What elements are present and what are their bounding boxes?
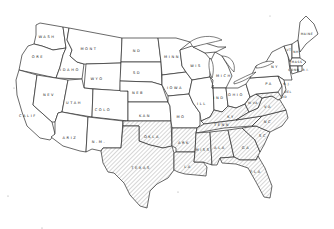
- label-ore: ORE: [32, 55, 44, 59]
- label-sc: SC: [259, 134, 267, 138]
- label-nev: NEV: [43, 93, 55, 97]
- label-colo: COLO: [95, 108, 111, 112]
- label-maine: MAINE: [301, 32, 314, 36]
- label-idaho: IDAHO: [60, 68, 80, 72]
- label-fla: FLA: [250, 170, 261, 174]
- label-ohio: OHIO: [228, 93, 244, 97]
- label-mont: MONT: [80, 47, 97, 51]
- speck: [7, 195, 8, 196]
- label-conn: CONN: [288, 68, 299, 72]
- label-nj: N.J.: [283, 82, 290, 86]
- label-pa: PA: [265, 82, 273, 86]
- label-wva: W.VA: [248, 101, 258, 105]
- label-ariz: ARIZ: [63, 136, 78, 140]
- label-md: MD: [281, 95, 287, 99]
- label-va: VA: [264, 105, 272, 109]
- label-calif: CALIF: [19, 114, 37, 118]
- label-miss: MISS: [195, 148, 210, 152]
- label-mo: MO: [176, 115, 185, 119]
- label-okla: OKLA: [144, 135, 160, 139]
- us-map: WASH ORE CALIF IDAHO NEV MONT WYO UTAH A…: [0, 0, 334, 229]
- state-iowa: [162, 72, 192, 96]
- label-ark: ARK: [178, 141, 190, 145]
- label-ala: ALA: [214, 146, 226, 150]
- label-mich: MICH: [216, 74, 232, 78]
- state-ariz: [51, 112, 88, 152]
- label-nm: N.M.: [92, 140, 106, 144]
- state-colo: [92, 89, 128, 121]
- state-fla: [220, 156, 272, 198]
- label-ky: KY: [227, 115, 235, 119]
- label-mass: MASS: [292, 60, 303, 64]
- label-tenn: TENN: [213, 123, 230, 127]
- state-nm: [86, 117, 123, 152]
- label-wis: WIS: [190, 64, 202, 68]
- label-texas: TEXAS: [130, 166, 151, 170]
- state-kan: [128, 102, 171, 121]
- label-minn: MINN: [164, 55, 180, 59]
- label-ind: IND: [213, 96, 224, 100]
- label-iowa: IOWA: [167, 86, 183, 90]
- speck: [41, 227, 42, 228]
- label-nd: ND: [133, 49, 142, 53]
- label-ill: ILL: [197, 102, 207, 106]
- label-wash: WASH: [38, 35, 55, 39]
- label-nc: NC: [264, 120, 272, 124]
- label-ri: R.I.: [302, 68, 309, 72]
- label-sd: SD: [133, 71, 141, 75]
- label-wyo: WYO: [90, 77, 103, 81]
- label-neb: NEB: [132, 91, 144, 95]
- label-nh: NH: [293, 50, 299, 54]
- label-ga: GA: [242, 146, 250, 150]
- label-kan: KAN: [139, 114, 151, 118]
- speck: [13, 87, 14, 88]
- label-la: LA: [184, 165, 192, 169]
- label-del: DEL: [284, 90, 292, 94]
- label-utah: UTAH: [66, 101, 82, 105]
- speck: [270, 16, 271, 17]
- speck: [177, 191, 178, 192]
- label-ny: NY: [271, 65, 279, 69]
- label-vt: VT: [286, 48, 291, 52]
